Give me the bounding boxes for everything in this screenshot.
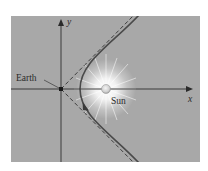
earth-label: Earth <box>16 73 37 83</box>
x-axis-label: x <box>187 94 193 104</box>
hyperbolic-orbit-diagram: Earth Sun x y <box>0 0 208 171</box>
sun-label: Sun <box>111 96 126 106</box>
y-axis-label: y <box>66 17 72 27</box>
sun <box>102 85 111 94</box>
earth <box>59 87 63 91</box>
